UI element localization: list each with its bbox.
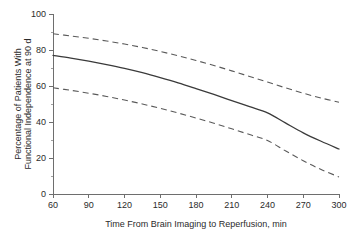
series-line-dashed xyxy=(53,34,339,102)
x-axis-ticks: 6090120150180210240270300 xyxy=(48,194,347,210)
data-series-group xyxy=(53,34,339,177)
x-tick-label: 90 xyxy=(84,200,94,210)
y-tick-label: 100 xyxy=(31,9,46,19)
y-tick-label: 20 xyxy=(36,153,46,163)
x-tick-label: 150 xyxy=(153,200,168,210)
y-tick-label: 40 xyxy=(36,117,46,127)
series-line-dashed xyxy=(53,88,339,177)
y-axis-ticks: 020406080100 xyxy=(31,9,53,199)
line-chart-plot: 020406080100 6090120150180210240270300 T… xyxy=(0,0,358,244)
y-axis-title: Percentage of Patients With Functional I… xyxy=(13,38,33,169)
chart-figure: 020406080100 6090120150180210240270300 T… xyxy=(0,0,358,244)
y-tick-label: 80 xyxy=(36,45,46,55)
series-line-solid xyxy=(53,55,339,149)
x-tick-label: 240 xyxy=(260,200,275,210)
x-tick-label: 60 xyxy=(48,200,58,210)
x-tick-label: 300 xyxy=(331,200,346,210)
y-tick-label: 60 xyxy=(36,81,46,91)
x-tick-label: 120 xyxy=(117,200,132,210)
x-axis-title: Time From Brain Imaging to Reperfusion, … xyxy=(105,219,287,229)
x-tick-label: 180 xyxy=(188,200,203,210)
x-tick-label: 270 xyxy=(296,200,311,210)
axes-group xyxy=(53,14,339,194)
x-tick-label: 210 xyxy=(224,200,239,210)
y-tick-label: 0 xyxy=(41,189,46,199)
y-axis-title-line1: Percentage of Patients With xyxy=(13,48,23,160)
y-axis-title-line2: Functional Independence at 90 d xyxy=(23,38,33,169)
